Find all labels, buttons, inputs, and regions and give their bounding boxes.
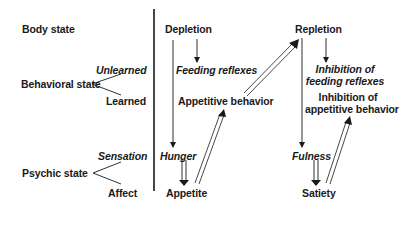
row-sublabel-unlearned: Unlearned	[96, 64, 146, 76]
node-inhibition-appetitive-behavior: Inhibition of appetitive behavior	[305, 91, 391, 115]
double-arrow-appetite-appetitive-behavior	[195, 109, 226, 184]
node-appetitive-behavior: Appetitive behavior	[178, 95, 274, 107]
node-depletion: Depletion	[165, 23, 212, 35]
node-appetite: Appetite	[166, 187, 207, 199]
node-repletion: Repletion	[295, 23, 342, 35]
double-arrow-fulness-satiety	[311, 160, 321, 186]
node-hunger: Hunger	[160, 150, 196, 162]
node-inhibition-feeding-reflexes: Inhibition of feeding reflexes	[303, 63, 387, 87]
node-inhibition-feeding-reflexes-line1: Inhibition of	[303, 63, 387, 75]
row-label-body-state: Body state	[22, 23, 75, 35]
row-label-behavioral-state: Behavioral state	[21, 78, 101, 90]
node-inhibition-appetitive-behavior-line1: Inhibition of	[305, 91, 391, 103]
row-sublabel-sensation: Sensation	[98, 150, 147, 162]
row-sublabel-learned: Learned	[106, 95, 146, 107]
node-satiety: Satiety	[302, 187, 336, 199]
row-sublabel-affect: Affect	[108, 187, 137, 199]
node-feeding-reflexes: Feeding reflexes	[176, 64, 257, 76]
node-inhibition-appetitive-behavior-line2: appetitive behavior	[305, 103, 391, 115]
branch-affect	[93, 173, 121, 184]
node-inhibition-feeding-reflexes-line2: feeding reflexes	[303, 75, 387, 87]
branch-sensation	[93, 162, 121, 173]
node-fulness: Fulness	[292, 150, 331, 162]
row-label-psychic-state: Psychic state	[22, 167, 88, 179]
double-arrow-hunger-appetite	[179, 160, 189, 186]
